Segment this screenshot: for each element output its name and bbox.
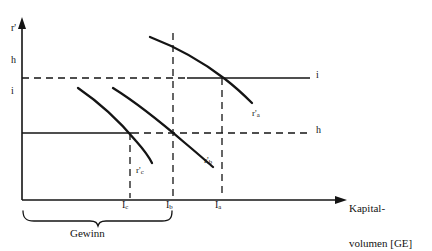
x-axis-title: Kapital- volumen [GE] <box>349 180 412 251</box>
curve-r-prime-c <box>78 88 152 163</box>
y-axis-label-h: h <box>11 55 21 66</box>
x-axis-arrowhead <box>335 196 347 204</box>
axes-group <box>18 17 347 204</box>
label-curve-c-sub: c <box>141 168 144 175</box>
y-axis-label-r-prime: r' <box>11 23 21 34</box>
gewinn-bracket-label: Gewinn <box>70 228 105 240</box>
y-axis-label-i: i <box>11 86 21 97</box>
x-axis-title-line2: volumen [GE] <box>349 238 412 250</box>
label-i-line: i <box>316 70 319 81</box>
label-curve-r-prime-b: r'b <box>204 155 212 166</box>
x-tick-Ic-sub: c <box>125 203 128 210</box>
economics-diagram: r' h i i h r'a r'b r'c Ic Ib Ia Kapital-… <box>0 0 432 251</box>
gewinn-brace <box>23 211 172 226</box>
label-curve-r-prime-c: r'c <box>136 165 144 176</box>
curve-r-prime-a <box>150 37 252 103</box>
vertical-markers-group <box>130 33 222 198</box>
label-curve-b-sub: b <box>209 158 212 165</box>
label-h-line: h <box>316 125 321 136</box>
curve-r-prime-b <box>113 88 213 167</box>
x-tick-Ia-sub: a <box>218 203 221 210</box>
x-tick-label-Ic: Ic <box>122 200 128 211</box>
label-curve-r-prime-a: r'a <box>252 108 260 119</box>
gewinn-brace-path <box>23 211 172 226</box>
x-tick-Ib-sub: b <box>169 203 172 210</box>
x-tick-label-Ia: Ia <box>215 200 221 211</box>
x-tick-label-Ib: Ib <box>166 200 173 211</box>
x-axis-title-line1: Kapital- <box>349 203 412 215</box>
marginal-return-curves-group <box>78 37 252 167</box>
y-axis-label-stack: r' h i <box>11 2 21 118</box>
label-curve-a-sub: a <box>257 111 260 118</box>
